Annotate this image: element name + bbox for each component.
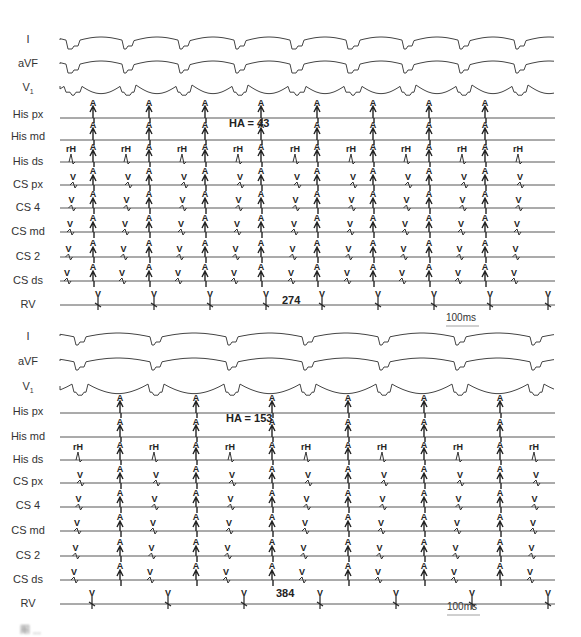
- svg-text:A: A: [258, 98, 265, 108]
- svg-text:A: A: [421, 417, 428, 427]
- svg-text:V: V: [487, 289, 493, 299]
- svg-text:A: A: [421, 561, 428, 571]
- svg-text:A: A: [482, 120, 489, 130]
- svg-text:A: A: [90, 166, 97, 176]
- svg-text:V: V: [455, 268, 461, 278]
- svg-text:V: V: [176, 244, 182, 254]
- svg-text:V: V: [95, 289, 101, 299]
- svg-text:A: A: [90, 262, 97, 272]
- svg-text:A: A: [314, 238, 321, 248]
- svg-text:V: V: [303, 494, 309, 504]
- svg-text:A: A: [421, 512, 428, 522]
- svg-text:V: V: [292, 195, 298, 205]
- svg-text:A: A: [258, 166, 265, 176]
- svg-text:V: V: [75, 494, 81, 504]
- svg-text:V: V: [299, 567, 305, 577]
- svg-text:V: V: [452, 543, 458, 553]
- svg-text:V: V: [181, 172, 187, 182]
- svg-text:V: V: [344, 268, 350, 278]
- svg-text:A: A: [202, 262, 209, 272]
- svg-text:A: A: [482, 238, 489, 248]
- svg-text:V: V: [234, 219, 240, 229]
- svg-text:A: A: [482, 213, 489, 223]
- svg-text:V: V: [376, 543, 382, 553]
- svg-text:A: A: [146, 213, 153, 223]
- svg-text:rH: rH: [177, 144, 187, 154]
- svg-text:V: V: [527, 567, 533, 577]
- svg-text:A: A: [482, 142, 489, 152]
- svg-text:V: V: [302, 518, 308, 528]
- svg-text:V: V: [179, 195, 185, 205]
- svg-text:A: A: [258, 213, 265, 223]
- svg-text:V: V: [399, 268, 405, 278]
- svg-text:A: A: [421, 537, 428, 547]
- svg-text:V: V: [431, 289, 437, 299]
- svg-text:A: A: [269, 393, 276, 403]
- svg-text:V: V: [151, 494, 157, 504]
- svg-text:A: A: [202, 98, 209, 108]
- svg-text:V: V: [72, 543, 78, 553]
- svg-text:A: A: [258, 238, 265, 248]
- svg-text:A: A: [497, 464, 504, 474]
- svg-text:A: A: [482, 98, 489, 108]
- svg-text:A: A: [146, 142, 153, 152]
- svg-text:V: V: [89, 588, 95, 598]
- svg-text:V: V: [227, 494, 233, 504]
- electrogram-figure: AAAAAAAAAAAAAAAAAAAAAAAArHrHrHrHrHrHrHrH…: [0, 0, 581, 637]
- svg-text:V: V: [455, 494, 461, 504]
- svg-text:A: A: [370, 213, 377, 223]
- svg-text:A: A: [146, 166, 153, 176]
- svg-text:A: A: [90, 213, 97, 223]
- svg-text:V: V: [70, 172, 76, 182]
- svg-text:A: A: [345, 561, 352, 571]
- svg-text:V: V: [232, 244, 238, 254]
- svg-text:A: A: [421, 488, 428, 498]
- cycle-length-top: 274: [282, 294, 300, 306]
- svg-text:A: A: [269, 537, 276, 547]
- svg-text:V: V: [533, 470, 539, 480]
- svg-text:A: A: [426, 213, 433, 223]
- svg-text:A: A: [345, 417, 352, 427]
- svg-text:V: V: [530, 518, 536, 528]
- svg-text:V: V: [74, 518, 80, 528]
- svg-text:A: A: [202, 238, 209, 248]
- svg-text:V: V: [381, 470, 387, 480]
- svg-text:V: V: [178, 219, 184, 229]
- label-lead-v1-top: V1: [0, 81, 56, 95]
- svg-text:A: A: [370, 189, 377, 199]
- svg-text:A: A: [90, 189, 97, 199]
- svg-text:A: A: [269, 464, 276, 474]
- svg-text:V: V: [300, 543, 306, 553]
- svg-text:V: V: [378, 518, 384, 528]
- svg-text:A: A: [426, 238, 433, 248]
- svg-text:A: A: [117, 561, 124, 571]
- svg-text:V: V: [123, 195, 129, 205]
- label-his-px-bottom: His px: [0, 405, 56, 417]
- svg-text:V: V: [511, 268, 517, 278]
- svg-text:A: A: [193, 561, 200, 571]
- svg-text:A: A: [117, 537, 124, 547]
- svg-text:A: A: [90, 120, 97, 130]
- v1-text: V: [22, 380, 29, 392]
- svg-text:V: V: [120, 244, 126, 254]
- svg-text:A: A: [314, 98, 321, 108]
- svg-text:A: A: [426, 120, 433, 130]
- svg-text:A: A: [497, 393, 504, 403]
- svg-text:V: V: [514, 219, 520, 229]
- v1-subscript: 1: [30, 88, 34, 95]
- svg-text:V: V: [241, 588, 247, 598]
- svg-text:V: V: [71, 567, 77, 577]
- svg-text:V: V: [67, 219, 73, 229]
- ha-interval-bottom: HA = 153: [226, 412, 272, 424]
- label-lead-avf-bottom: aVF: [0, 355, 56, 367]
- svg-text:A: A: [426, 262, 433, 272]
- svg-text:A: A: [421, 393, 428, 403]
- svg-text:A: A: [314, 142, 321, 152]
- svg-text:A: A: [345, 464, 352, 474]
- svg-text:A: A: [146, 189, 153, 199]
- svg-text:A: A: [193, 512, 200, 522]
- svg-text:V: V: [153, 470, 159, 480]
- cycle-length-bottom: 384: [276, 587, 294, 599]
- svg-text:A: A: [258, 189, 265, 199]
- svg-text:V: V: [77, 470, 83, 480]
